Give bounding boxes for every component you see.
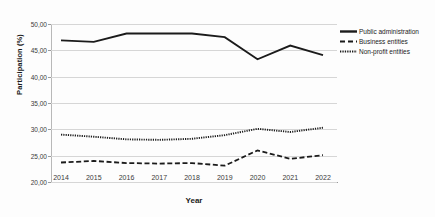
legend-swatch-dotted-icon bbox=[340, 47, 357, 56]
legend-item[interactable]: Non-profit entities bbox=[340, 47, 435, 56]
legend-item[interactable]: Public administration bbox=[340, 27, 435, 36]
y-axis-tick-label: 35,00 bbox=[31, 100, 47, 107]
y-axis-tick-label: 50,00 bbox=[31, 21, 47, 28]
x-axis-title: Year bbox=[51, 196, 337, 205]
legend-item[interactable]: Business entities bbox=[340, 37, 435, 46]
y-axis-tick-label: 20,00 bbox=[31, 179, 47, 186]
y-axis-tick-label: 30,00 bbox=[31, 126, 47, 133]
plot-area: 20,0025,0030,0035,0040,0045,0050,00 2014… bbox=[51, 12, 337, 170]
legend-swatch-solid-icon bbox=[340, 27, 357, 36]
line-chart-figure: Participation (%) 20,0025,0030,0035,0040… bbox=[0, 0, 435, 217]
series-line bbox=[61, 128, 323, 140]
y-axis-tick-label: 40,00 bbox=[31, 73, 47, 80]
legend-swatch-dashed-icon bbox=[340, 37, 357, 46]
legend-label: Public administration bbox=[359, 27, 419, 36]
y-axis-title: Participation (%) bbox=[15, 10, 24, 120]
series-line bbox=[61, 150, 323, 165]
legend-label: Non-profit entities bbox=[359, 47, 410, 56]
y-axis-tick-label: 45,00 bbox=[31, 47, 47, 54]
series-lines bbox=[51, 12, 337, 194]
legend-label: Business entities bbox=[359, 37, 408, 46]
series-line bbox=[61, 33, 323, 59]
chart-legend: Public administrationBusiness entitiesNo… bbox=[340, 27, 435, 57]
y-axis-tick-label: 25,00 bbox=[31, 152, 47, 159]
